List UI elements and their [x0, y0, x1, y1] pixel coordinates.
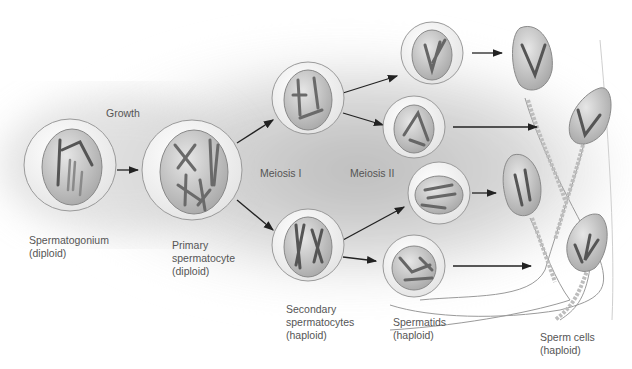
cell-spermatid-1 — [401, 22, 463, 84]
label-meiosis-2: Meiosis II — [350, 167, 394, 180]
label-meiosis-1: Meiosis I — [260, 167, 301, 180]
cell-secondary-spermatocyte-2 — [272, 209, 344, 281]
cell-primary-spermatocyte — [142, 120, 242, 220]
label-primary-spermatocyte: Primary spermatocyte (diploid) — [172, 239, 235, 278]
cell-spermatogonium — [24, 119, 116, 211]
cell-spermatid-2 — [383, 96, 445, 158]
cell-spermatid-4 — [383, 235, 445, 297]
spermatogenesis-diagram: Growth Meiosis I Meiosis II Spermatogoni… — [0, 0, 632, 369]
sperm-cell-1 — [513, 26, 553, 90]
label-spermatogonium: Spermatogonium (diploid) — [29, 234, 109, 260]
cell-secondary-spermatocyte-1 — [272, 62, 344, 134]
label-sperm-cells: Sperm cells (haploid) — [540, 331, 595, 357]
label-spermatids: Spermatids (haploid) — [393, 316, 446, 342]
cell-spermatid-3 — [408, 162, 470, 224]
label-secondary-spermatocytes: Secondary spermatocytes (haploid) — [286, 303, 354, 342]
label-growth: Growth — [106, 107, 140, 120]
